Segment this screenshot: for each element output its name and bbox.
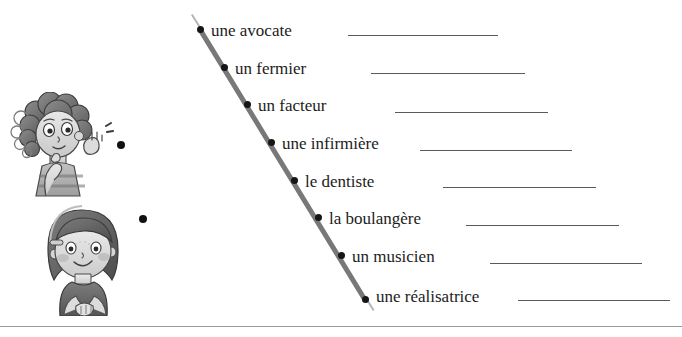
vocab-label-3: un facteur (258, 97, 326, 114)
vocab-bullet-5[interactable] (291, 177, 298, 184)
vocab-label-1: une avocate (211, 22, 292, 39)
vocab-label-7: un musicien (352, 248, 435, 265)
answer-blank-6[interactable] (466, 225, 619, 226)
page-bottom-rule (0, 326, 682, 327)
answer-blank-7[interactable] (490, 263, 642, 264)
left-bullet-2[interactable] (139, 215, 147, 223)
vocab-label-6: la boulangère (329, 210, 421, 227)
vocab-label-4: une infirmière (282, 135, 379, 152)
vocab-label-2: un fermier (235, 60, 306, 77)
girl-smiling-illustration (28, 196, 140, 316)
answer-blank-4[interactable] (420, 150, 572, 151)
hair-clip-icon (50, 240, 63, 245)
answer-blank-1[interactable] (348, 35, 498, 36)
vocab-label-5: le dentiste (305, 173, 374, 190)
vocab-bullet-3[interactable] (244, 101, 251, 108)
vocab-bullet-1[interactable] (197, 26, 204, 33)
answer-blank-3[interactable] (395, 112, 548, 113)
vocab-bullet-8[interactable] (362, 296, 369, 303)
vocab-label-8: une réalisatrice (376, 288, 479, 305)
answer-blank-2[interactable] (371, 73, 525, 74)
vocab-bullet-6[interactable] (315, 214, 322, 221)
vocab-bullet-2[interactable] (221, 64, 228, 71)
vocab-bullet-7[interactable] (338, 252, 345, 259)
worksheet-page: une avocateun fermierun facteurune infir… (0, 0, 682, 337)
answer-blank-5[interactable] (443, 187, 596, 188)
answer-blank-8[interactable] (518, 300, 670, 301)
boy-thinking-illustration (6, 92, 114, 200)
vocab-bullet-4[interactable] (268, 139, 275, 146)
left-bullet-1[interactable] (117, 141, 125, 149)
